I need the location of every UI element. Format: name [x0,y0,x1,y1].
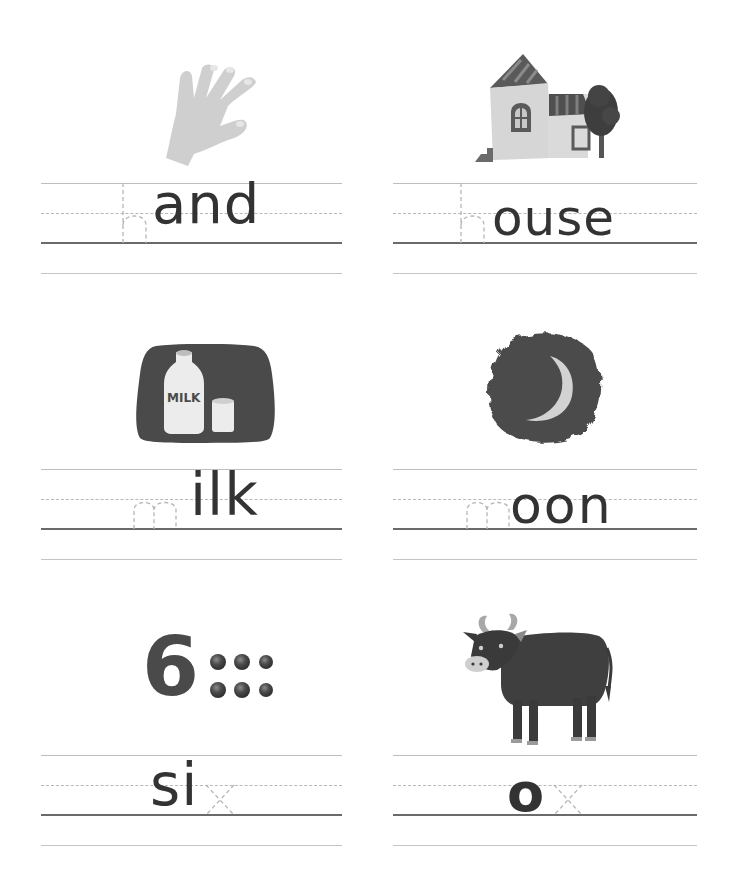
guide-bottom-line [41,845,342,846]
word-hand-shown: and [152,176,260,232]
guide-base-line [41,242,342,244]
trace-letter-m[interactable] [464,498,516,530]
numeral-six: 6 [142,626,199,708]
word-milk-shown: ilk [190,466,259,524]
guide-bottom-line [41,273,342,274]
trace-letter-h[interactable] [456,183,492,244]
card-milk: MILK ilk [0,290,367,580]
card-moon: oon [367,290,735,580]
guide-bottom-line [393,559,697,560]
moon-icon [480,326,608,448]
card-house: ouse [367,0,735,290]
trace-letter-x[interactable] [203,784,237,816]
word-house-shown: ouse [492,193,615,243]
house-icon [473,50,633,168]
six-dots-icon [208,652,278,702]
word-six-shown: si [150,756,198,814]
milk-icon: MILK [134,344,276,444]
card-six: 6 si [0,580,367,873]
guide-top-line [393,755,697,756]
card-hand: and [0,0,367,290]
word-ox-shown: o [507,766,545,820]
guide-bottom-line [393,273,697,274]
guide-top-line [393,469,697,470]
guide-bottom-line [393,845,697,846]
card-ox: o [367,580,735,873]
trace-letter-m[interactable] [131,498,183,530]
ox-icon [461,610,613,746]
word-moon-shown: oon [510,479,613,531]
guide-bottom-line [41,559,342,560]
hand-icon [158,58,263,173]
trace-letter-x[interactable] [551,784,585,816]
svg-text:MILK: MILK [167,391,201,405]
trace-letter-h[interactable] [118,183,154,244]
guide-top-line [393,183,697,184]
